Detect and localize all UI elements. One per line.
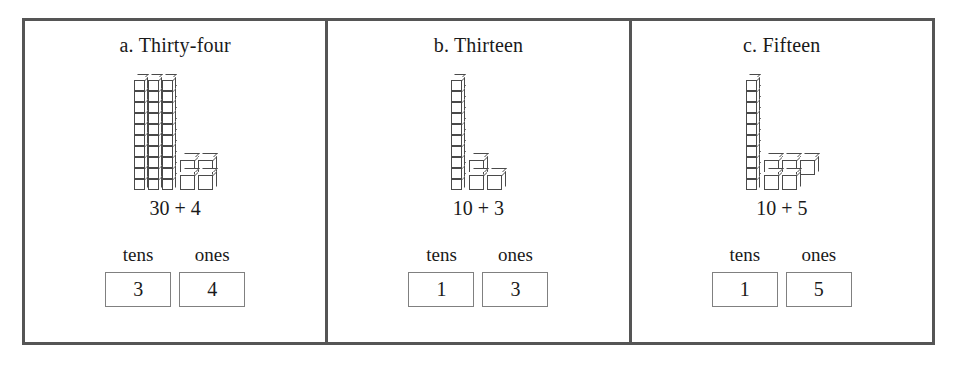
tens-label: tens [712,245,778,264]
unit-cube-icon [134,80,148,91]
unit-cube-icon [162,135,176,146]
unit-cube-icon [782,175,800,190]
unit-cube-icon [746,135,760,146]
unit-cube-icon [148,102,162,113]
unit-cube-icon [451,80,465,91]
unit-cube-icon [451,124,465,135]
unit-cube-icon [162,179,176,190]
expanded-form-equation: 10 + 3 [453,198,504,218]
place-value-worksheet: a. Thirty-four 30 + 4 tens ones 3 4 b. T… [22,18,935,345]
unit-cube-icon [148,168,162,179]
unit-cube-icon [451,135,465,146]
unit-cube-icon [148,146,162,157]
place-value-chart: tens ones 1 5 [712,245,852,307]
unit-cube-icon [746,113,760,124]
unit-cube-icon [451,179,465,190]
unit-cube-icon [469,175,487,190]
unit-cube-icon [162,91,176,102]
unit-cube-icon [746,146,760,157]
base-ten-blocks [328,64,628,190]
unit-cube-icon [148,91,162,102]
unit-cube-icon [162,113,176,124]
unit-cube-icon [451,91,465,102]
tens-answer-box[interactable]: 1 [408,272,474,307]
unit-cube-icon [162,168,176,179]
ones-label: ones [179,245,245,264]
ones-label: ones [786,245,852,264]
unit-cube-icon [162,157,176,168]
unit-cube-icon [134,102,148,113]
expanded-form-equation: 10 + 5 [756,198,807,218]
unit-cube-icon [148,80,162,91]
ten-rod [134,80,148,190]
unit-cube-icon [134,124,148,135]
unit-cube-icon [451,157,465,168]
base-ten-blocks [632,64,932,190]
unit-cube-icon [451,102,465,113]
panel-a: a. Thirty-four 30 + 4 tens ones 3 4 [25,21,325,342]
unit-cube-icon [800,160,818,175]
place-value-chart: tens ones 1 3 [408,245,548,307]
tens-answer-box[interactable]: 1 [712,272,778,307]
unit-cube-icon [148,135,162,146]
tens-answer-box[interactable]: 3 [105,272,171,307]
unit-cube-icon [180,175,198,190]
tens-rods [134,80,176,190]
panel-b: b. Thirteen 10 + 3 tens ones 1 3 [325,21,628,342]
ten-rod [451,80,465,190]
panel-c: c. Fifteen 10 + 5 tens ones 1 5 [629,21,932,342]
unit-cube-icon [746,102,760,113]
unit-cube-icon [148,157,162,168]
ten-rod [746,80,760,190]
ones-answer-box[interactable]: 3 [482,272,548,307]
ten-rod [148,80,162,190]
unit-cube-icon [162,102,176,113]
expanded-form-equation: 30 + 4 [150,198,201,218]
unit-cube-icon [746,157,760,168]
unit-cube-icon [134,157,148,168]
ones-cube-row [469,175,505,190]
unit-cube-icon [134,179,148,190]
panel-title: a. Thirty-four [120,35,231,55]
ones-cube-row [764,175,818,190]
unit-cube-icon [134,168,148,179]
unit-cube-icon [764,175,782,190]
unit-cube-icon [746,91,760,102]
unit-cube-icon [451,168,465,179]
unit-cube-icon [134,91,148,102]
ones-cubes [764,160,818,190]
unit-cube-icon [451,113,465,124]
ones-cubes [180,160,216,190]
panel-title: c. Fifteen [743,35,821,55]
unit-cube-icon [134,146,148,157]
unit-cube-icon [451,146,465,157]
tens-rods [451,80,465,190]
ones-answer-box[interactable]: 5 [786,272,852,307]
place-value-chart: tens ones 3 4 [105,245,245,307]
unit-cube-icon [162,146,176,157]
tens-label: tens [105,245,171,264]
unit-cube-icon [148,179,162,190]
unit-cube-icon [134,135,148,146]
unit-cube-icon [162,124,176,135]
unit-cube-icon [198,175,216,190]
ten-rod [162,80,176,190]
tens-rods [746,80,760,190]
unit-cube-icon [148,124,162,135]
tens-label: tens [408,245,474,264]
unit-cube-icon [746,179,760,190]
unit-cube-icon [134,113,148,124]
base-ten-blocks [25,64,325,190]
unit-cube-icon [148,113,162,124]
unit-cube-icon [487,175,505,190]
unit-cube-icon [746,80,760,91]
ones-answer-box[interactable]: 4 [179,272,245,307]
ones-cube-row [180,175,216,190]
unit-cube-icon [746,124,760,135]
unit-cube-icon [162,80,176,91]
ones-label: ones [482,245,548,264]
ones-cubes [469,160,505,190]
panel-title: b. Thirteen [434,35,524,55]
unit-cube-icon [746,168,760,179]
